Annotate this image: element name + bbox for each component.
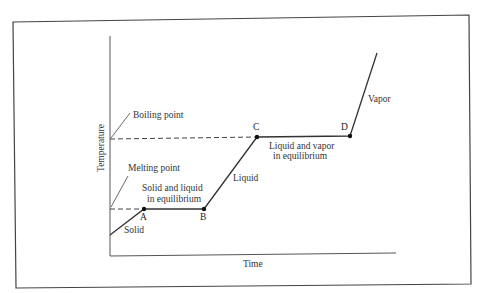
- x-axis-title: Time: [243, 259, 263, 269]
- point-d-label: D: [341, 122, 348, 132]
- solid-label: Solid: [124, 225, 144, 235]
- boiling-point-line: [110, 137, 257, 139]
- melting-point-label: Melting point: [128, 163, 180, 173]
- vapor-label: Vapor: [368, 94, 392, 104]
- liquid-vapor-label-line1: Liquid and vapor: [269, 141, 335, 151]
- liquid-vapor-label-line2: in equilibrium: [273, 151, 328, 161]
- x-axis: [110, 253, 396, 256]
- point-b-label: B: [200, 212, 206, 222]
- point-c-marker: [255, 135, 259, 139]
- heating-curve: [110, 53, 377, 235]
- point-d-marker: [348, 134, 352, 138]
- y-axis-title: Temperature: [96, 124, 106, 172]
- point-c-label: C: [253, 122, 259, 132]
- point-a-marker: [142, 207, 146, 211]
- solid-liquid-label-line1: Solid and liquid: [142, 183, 203, 193]
- boiling-point-leader: [111, 113, 130, 138]
- solid-liquid-label-line2: in equilibrium: [147, 194, 202, 204]
- point-a-label: A: [140, 212, 147, 222]
- liquid-label: Liquid: [233, 173, 259, 183]
- boiling-point-label: Boiling point: [133, 110, 184, 120]
- heating-curve-diagram: A B C D Boiling point Melting point Soli…: [0, 0, 493, 293]
- melting-point-leader: [111, 176, 128, 207]
- point-b-marker: [202, 207, 206, 211]
- figure-frame: [13, 15, 471, 288]
